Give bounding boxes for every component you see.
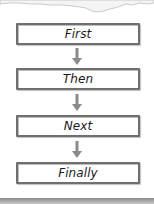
step-box-next: Next [16,115,140,137]
step-label: Then [63,72,93,86]
torn-paper-edge [0,0,154,14]
arrow-down-icon [71,140,83,160]
arrow-down-icon [71,47,83,67]
arrow-down-icon [71,93,83,113]
step-box-finally: Finally [16,162,140,184]
step-box-first: First [16,23,140,45]
step-label: Next [64,119,93,133]
step-label: Finally [58,166,98,180]
bottom-border [0,198,154,204]
step-box-then: Then [16,68,140,90]
step-label: First [65,27,92,41]
